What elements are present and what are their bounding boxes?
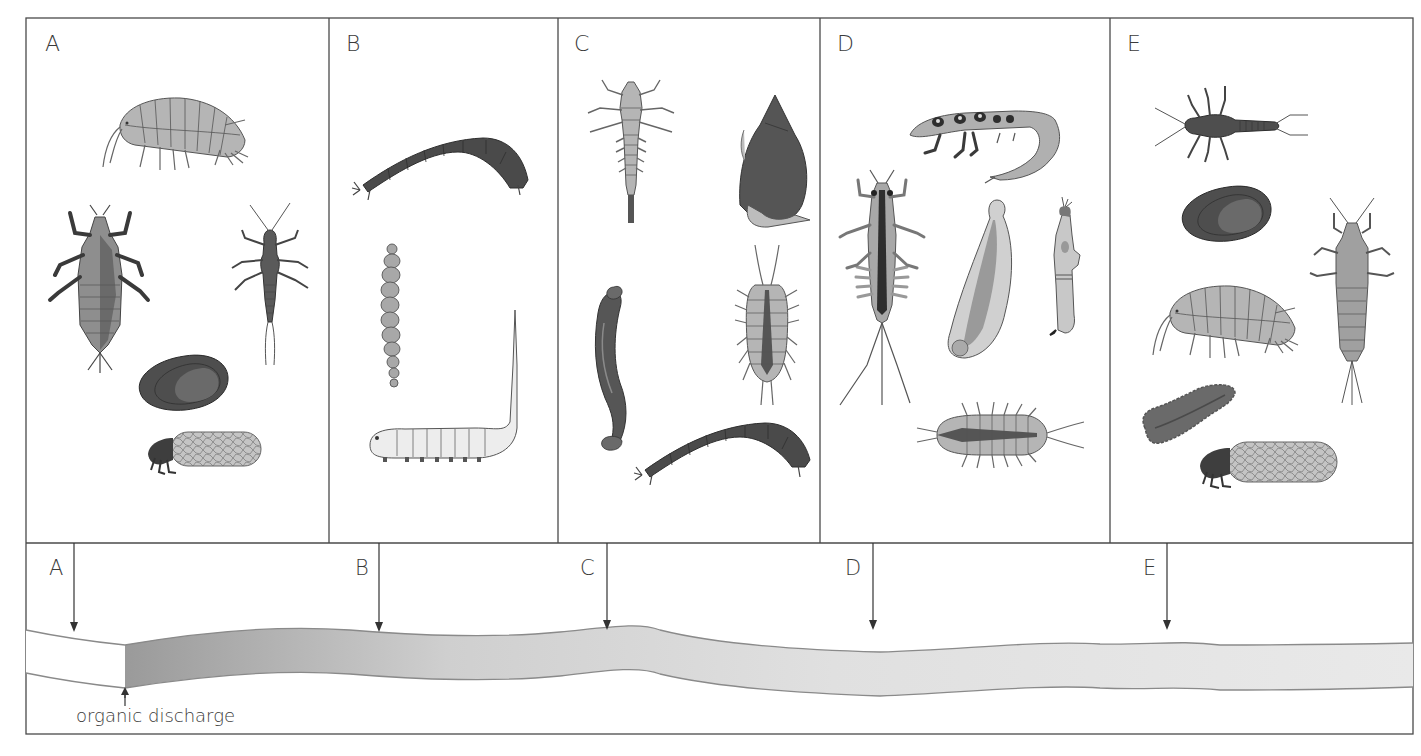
panel-e-organisms	[1143, 86, 1394, 488]
panel-c-organisms	[588, 80, 810, 485]
arrow-d	[869, 543, 877, 630]
mussel-icon	[1182, 186, 1271, 241]
isopod-icon	[917, 402, 1084, 468]
arrow-c	[603, 543, 611, 630]
mayfly-nymph-icon	[840, 170, 924, 405]
flatworm-icon	[1143, 385, 1235, 444]
caddis-larva-icon	[910, 111, 1060, 183]
caddis-larva-icon	[148, 432, 261, 474]
panel-d-label: D	[837, 33, 854, 55]
shrimp-icon	[1153, 286, 1298, 358]
sample-point-e-label: E	[1143, 558, 1156, 579]
stonefly-icon	[1155, 86, 1308, 162]
shrimp-icon	[103, 98, 248, 170]
midge-larva-icon	[352, 138, 528, 200]
discharge-arrow	[121, 687, 129, 706]
panel-a-organisms	[50, 98, 308, 474]
arrow-a	[70, 543, 78, 632]
mayfly-nymph-icon	[1310, 198, 1394, 405]
sample-point-d-label: D	[845, 558, 861, 579]
panel-a-label: A	[45, 33, 60, 55]
isopod-icon	[735, 245, 799, 405]
midge-larva-icon	[634, 423, 810, 485]
panel-c-label: C	[574, 33, 589, 55]
arrow-b	[375, 543, 383, 632]
diagram-canvas	[0, 0, 1421, 756]
caddis-larva-icon	[1200, 442, 1337, 488]
beetle-larva-icon	[588, 80, 674, 223]
mussel-icon	[139, 355, 228, 410]
bloodworm-icon	[381, 244, 400, 387]
sample-point-c-label: C	[580, 558, 595, 579]
panel-b-organisms	[352, 138, 528, 462]
arrow-e	[1163, 543, 1171, 630]
sample-point-a-label: A	[49, 558, 63, 579]
organic-discharge-label: organic discharge	[76, 707, 235, 725]
panel-b-label: B	[346, 33, 360, 55]
panel-d-organisms	[840, 111, 1084, 468]
snail-icon	[740, 95, 810, 227]
flatworm-icon	[948, 200, 1011, 358]
stonefly-icon	[232, 203, 308, 365]
river-polluted-section	[125, 626, 1413, 696]
blackfly-larva-icon	[1050, 197, 1080, 335]
nymph-icon	[50, 205, 148, 373]
river	[26, 626, 1413, 696]
leech-icon	[595, 286, 626, 450]
panel-e-label: E	[1127, 33, 1141, 55]
pollution-indicator-diagram: A B C D E A B C D E organic discharge	[0, 0, 1421, 756]
sample-point-b-label: B	[355, 558, 369, 579]
